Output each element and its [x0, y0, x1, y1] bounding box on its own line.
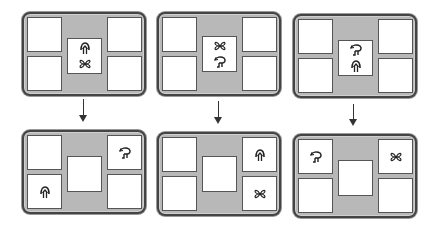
cell-bottom-right [107, 56, 142, 91]
hook-arrow-icon [118, 146, 132, 160]
arrow-up-icon [38, 185, 52, 199]
four-petal-icon [78, 57, 92, 71]
cell-top-left [27, 135, 62, 170]
panel-column-3-before [293, 14, 417, 98]
four-petal-icon [213, 39, 227, 53]
cell-bottom-left [27, 56, 62, 91]
cell-top-right [107, 17, 142, 52]
cell-bottom-left [298, 178, 333, 213]
cell-bottom-left [162, 176, 197, 211]
panel-column-2-before [157, 12, 281, 96]
panel-column-1-after [22, 130, 146, 214]
transition-arrow-column-2 [214, 101, 224, 125]
cell-bottom-right [378, 58, 413, 93]
cell-bottom-right [242, 176, 277, 211]
cell-top-right [378, 19, 413, 54]
hook-arrow-icon [309, 150, 323, 164]
four-petal-icon [389, 150, 403, 164]
cell-top-right [378, 139, 413, 174]
arrow-up-icon [349, 59, 363, 73]
arrow-up-icon [253, 148, 267, 162]
hook-arrow-icon [213, 55, 227, 69]
cell-bottom-left [27, 174, 62, 209]
cell-bottom-left [162, 56, 197, 91]
cell-bottom-right [107, 174, 142, 209]
transition-arrow-column-1 [79, 99, 89, 123]
four-petal-icon [253, 187, 267, 201]
cell-bottom-right [242, 56, 277, 91]
cell-center [202, 156, 237, 192]
cell-top-left [298, 19, 333, 54]
cell-top-right [242, 17, 277, 52]
cell-top-right [242, 137, 277, 172]
cell-top-left [162, 17, 197, 52]
arrow-up-icon [78, 41, 92, 55]
cell-bottom-left [298, 58, 333, 93]
cell-center [338, 40, 373, 76]
cell-bottom-right [378, 178, 413, 213]
panel-column-1-before [22, 12, 146, 96]
cell-center [338, 160, 373, 196]
cell-center [67, 38, 102, 74]
cell-top-left [162, 137, 197, 172]
cell-center [67, 156, 102, 192]
cell-top-left [27, 17, 62, 52]
panel-column-2-after [157, 132, 281, 216]
hook-arrow-icon [349, 43, 363, 57]
cell-top-left [298, 139, 333, 174]
cell-center [202, 36, 237, 72]
cell-top-right [107, 135, 142, 170]
transition-arrow-column-3 [349, 104, 359, 128]
panel-column-3-after [293, 134, 417, 218]
